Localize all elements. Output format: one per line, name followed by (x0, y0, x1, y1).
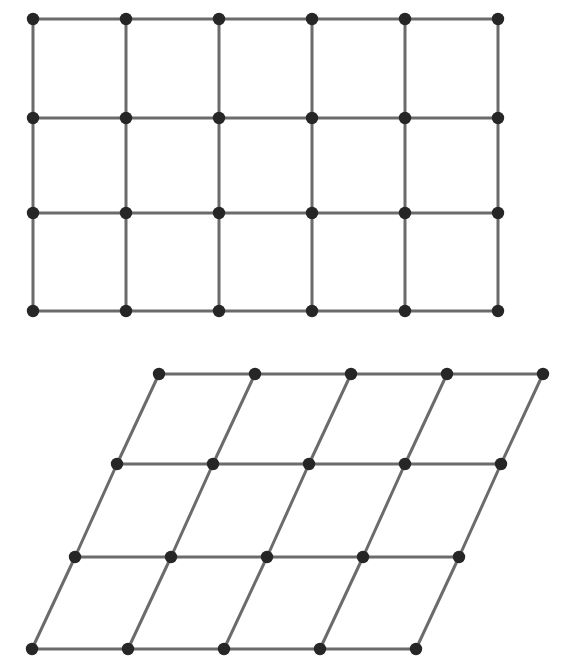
lattice-point (153, 368, 165, 380)
lattice-point (399, 458, 411, 470)
lattice-point (399, 112, 411, 124)
lattice-point (453, 551, 465, 563)
lattice-edge (128, 557, 171, 649)
lattice-point (492, 207, 504, 219)
lattice-point (399, 13, 411, 25)
lattice-point (122, 643, 134, 655)
lattice-point (303, 458, 315, 470)
rectangular-lattice-edges (33, 19, 498, 311)
lattice-point (27, 207, 39, 219)
lattice-point (492, 112, 504, 124)
lattice-edge (117, 374, 159, 464)
lattice-point (249, 368, 261, 380)
lattice-edge (309, 374, 351, 464)
lattice-point (213, 13, 225, 25)
lattice-point (306, 207, 318, 219)
lattice-diagram (0, 0, 570, 670)
lattice-point (399, 207, 411, 219)
lattice-point (120, 207, 132, 219)
lattice-edge (32, 557, 75, 649)
lattice-point (410, 643, 422, 655)
lattice-point (261, 551, 273, 563)
lattice-point (314, 643, 326, 655)
lattice-point (306, 13, 318, 25)
lattice-point (120, 13, 132, 25)
lattice-point (69, 551, 81, 563)
lattice-point (537, 368, 549, 380)
lattice-point (27, 305, 39, 317)
lattice-edge (459, 464, 501, 557)
lattice-point (213, 305, 225, 317)
lattice-point (26, 643, 38, 655)
lattice-point (345, 368, 357, 380)
lattice-point (27, 112, 39, 124)
lattice-edge (416, 557, 459, 649)
lattice-edge (213, 374, 255, 464)
lattice-edge (405, 374, 447, 464)
lattice-edge (267, 464, 309, 557)
lattice-point (213, 112, 225, 124)
lattice-edge (363, 464, 405, 557)
lattice-point (111, 458, 123, 470)
lattice-point (492, 13, 504, 25)
lattice-edge (224, 557, 267, 649)
lattice-point (306, 112, 318, 124)
lattice-point (218, 643, 230, 655)
lattice-point (399, 305, 411, 317)
lattice-point (213, 207, 225, 219)
lattice-point (207, 458, 219, 470)
lattice-point (441, 368, 453, 380)
lattice-point (27, 13, 39, 25)
lattice-edge (75, 464, 117, 557)
lattice-point (492, 305, 504, 317)
lattice-point (357, 551, 369, 563)
rectangular-lattice-nodes (27, 13, 504, 317)
lattice-point (120, 112, 132, 124)
lattice-edge (320, 557, 363, 649)
figure-canvas (0, 0, 570, 670)
lattice-point (165, 551, 177, 563)
lattice-point (306, 305, 318, 317)
lattice-edge (171, 464, 213, 557)
lattice-edge (501, 374, 543, 464)
lattice-point (495, 458, 507, 470)
oblique-lattice-edges (32, 374, 543, 649)
lattice-point (120, 305, 132, 317)
